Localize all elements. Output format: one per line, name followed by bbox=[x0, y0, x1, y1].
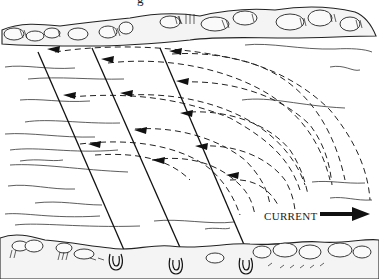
top-riverbank bbox=[2, 7, 376, 46]
current-arrow-icon bbox=[320, 207, 370, 221]
fishing-lines bbox=[38, 48, 248, 254]
fishing-line-2 bbox=[92, 48, 182, 252]
current-label: CURRENT bbox=[264, 210, 317, 222]
caption-fragment: g bbox=[137, 0, 144, 7]
diagram-canvas bbox=[0, 0, 379, 279]
fishing-line-1 bbox=[38, 52, 124, 250]
bottom-riverbank bbox=[0, 235, 379, 279]
water-ripples bbox=[5, 44, 372, 229]
fishing-drift-diagram: g bbox=[0, 0, 379, 279]
fishing-line-3 bbox=[160, 48, 248, 254]
